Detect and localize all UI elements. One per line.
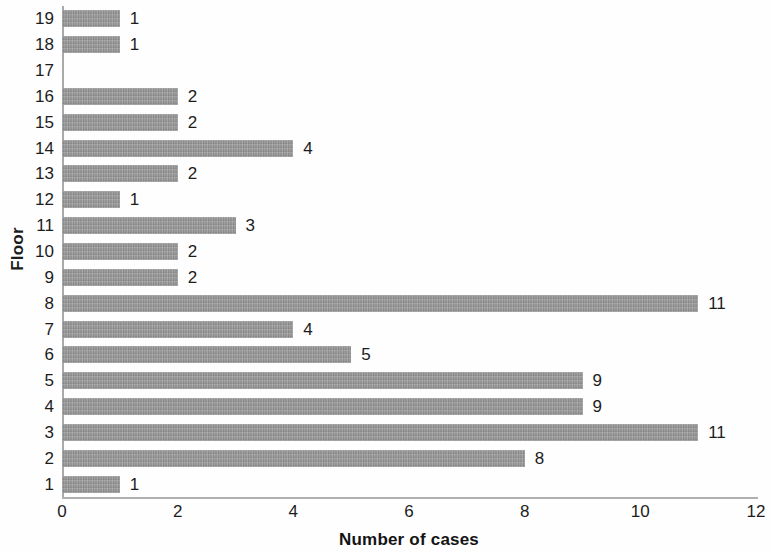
y-axis-tick-label: 10: [35, 243, 54, 260]
bar-row: 92: [62, 264, 756, 290]
y-axis-title: Floor: [0, 0, 36, 497]
bar: [62, 88, 178, 105]
bar: [62, 372, 583, 389]
bar-value-label: 4: [303, 140, 312, 157]
x-axis-tick-label: 6: [404, 503, 413, 520]
bar-row: 59: [62, 368, 756, 394]
y-axis-tick-label: 13: [35, 165, 54, 182]
bar: [62, 217, 236, 234]
x-axis-title: Number of cases: [62, 530, 756, 550]
bar-row: 191: [62, 6, 756, 32]
bar: [62, 165, 178, 182]
x-axis-line: [62, 497, 758, 499]
y-axis-tick-label: 16: [35, 88, 54, 105]
bar-row: 132: [62, 161, 756, 187]
bar-row: 311: [62, 419, 756, 445]
bar-row: 113: [62, 213, 756, 239]
y-axis-tick-label: 2: [45, 450, 54, 467]
bar-row: 17: [62, 58, 756, 84]
x-axis-tick-label: 8: [520, 503, 529, 520]
bar-row: 144: [62, 135, 756, 161]
bar: [62, 398, 583, 415]
bar: [62, 476, 120, 493]
bar-row: 65: [62, 342, 756, 368]
bar: [62, 243, 178, 260]
bar-value-label: 1: [130, 36, 139, 53]
bar: [62, 191, 120, 208]
bar-value-label: 1: [130, 191, 139, 208]
bar-value-label: 11: [708, 424, 726, 441]
y-axis-tick-label: 19: [35, 10, 54, 27]
x-axis-tick-label: 2: [173, 503, 182, 520]
y-axis-tick-label: 8: [45, 295, 54, 312]
y-axis-tick-label: 17: [35, 62, 54, 79]
y-axis-tick-label: 7: [45, 321, 54, 338]
bar-row: 121: [62, 187, 756, 213]
y-axis-tick-label: 4: [45, 398, 54, 415]
bar-row: 181: [62, 32, 756, 58]
y-axis-tick-label: 12: [35, 191, 54, 208]
bar-value-label: 3: [246, 217, 255, 234]
bar-row: 152: [62, 109, 756, 135]
bar-value-label: 2: [188, 165, 197, 182]
bar: [62, 269, 178, 286]
bar: [62, 321, 293, 338]
y-axis-tick-label: 1: [45, 476, 54, 493]
bar-value-label: 1: [130, 10, 139, 27]
bar-value-label: 8: [535, 450, 544, 467]
x-axis-tick-label: 10: [631, 503, 650, 520]
bar-value-label: 2: [188, 114, 197, 131]
bar-value-label: 4: [303, 321, 312, 338]
y-axis-title-text: Floor: [8, 227, 28, 271]
bar: [62, 36, 120, 53]
x-axis-tick-labels: 024681012: [62, 503, 756, 527]
bar: [62, 450, 525, 467]
bar-value-label: 2: [188, 243, 197, 260]
y-axis-tick-label: 11: [36, 217, 54, 234]
bar-row: 102: [62, 239, 756, 265]
bar-row: 28: [62, 445, 756, 471]
bar-value-label: 5: [361, 346, 370, 363]
bar: [62, 424, 698, 441]
bar: [62, 114, 178, 131]
y-axis-tick-label: 3: [45, 424, 54, 441]
y-axis-tick-label: 18: [35, 36, 54, 53]
bar-value-label: 1: [130, 476, 139, 493]
bar-value-label: 9: [593, 372, 602, 389]
y-axis-tick-label: 6: [45, 346, 54, 363]
x-axis-tick-label: 12: [747, 503, 766, 520]
bar-row: 811: [62, 290, 756, 316]
y-axis-tick-label: 15: [35, 114, 54, 131]
bar-row: 11: [62, 471, 756, 497]
bar-row: 74: [62, 316, 756, 342]
x-axis-tick-label: 0: [57, 503, 66, 520]
bar-value-label: 9: [593, 398, 602, 415]
bar-value-label: 2: [188, 88, 197, 105]
y-axis-tick-label: 9: [45, 269, 54, 286]
bar: [62, 140, 293, 157]
x-axis-tick-label: 4: [289, 503, 298, 520]
bar-chart: Floor 1911811716215214413212111310292811…: [0, 0, 771, 552]
bar: [62, 295, 698, 312]
plot-area: 1911811716215214413212111310292811746559…: [62, 6, 756, 497]
bar-row: 49: [62, 394, 756, 420]
bar-value-label: 2: [188, 269, 197, 286]
bar-value-label: 11: [708, 295, 726, 312]
bar: [62, 10, 120, 27]
y-axis-tick-label: 14: [35, 140, 54, 157]
y-axis-tick-label: 5: [45, 372, 54, 389]
bar: [62, 346, 351, 363]
bar-row: 162: [62, 84, 756, 110]
